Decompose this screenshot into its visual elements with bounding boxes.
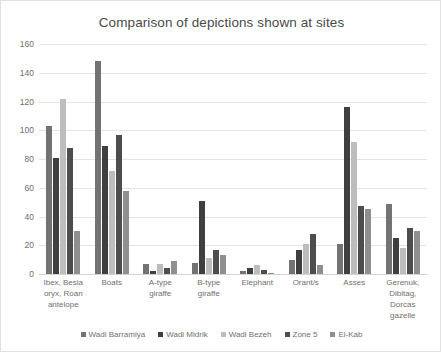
- bar-group: [233, 44, 282, 274]
- bar[interactable]: [199, 201, 205, 274]
- plot-area: 020406080100120140160: [39, 44, 427, 274]
- bar[interactable]: [74, 231, 80, 274]
- chart-container: Comparison of depictions shown at sites …: [0, 0, 441, 352]
- bar-group: [379, 44, 428, 274]
- bar-group: [185, 44, 234, 274]
- bar[interactable]: [46, 126, 52, 274]
- y-axis-tick: 120: [20, 97, 34, 107]
- bar[interactable]: [296, 250, 302, 274]
- bar[interactable]: [143, 264, 149, 274]
- legend-item[interactable]: El-Kab: [330, 330, 362, 339]
- legend-swatch-icon: [158, 332, 163, 337]
- bar[interactable]: [407, 228, 413, 274]
- bar[interactable]: [123, 191, 129, 274]
- x-axis-label: Elephant: [233, 277, 282, 321]
- legend-label: El-Kab: [338, 330, 362, 339]
- legend-item[interactable]: Wadi Midrik: [158, 330, 207, 339]
- bar[interactable]: [171, 261, 177, 274]
- bar[interactable]: [95, 61, 101, 274]
- bar[interactable]: [60, 99, 66, 274]
- bar[interactable]: [365, 209, 371, 274]
- bar[interactable]: [53, 158, 59, 274]
- y-axis-tick: 100: [20, 125, 34, 135]
- bar[interactable]: [116, 135, 122, 274]
- legend-label: Zone 5: [293, 330, 318, 339]
- bar[interactable]: [351, 142, 357, 274]
- x-axis-label: Boats: [88, 277, 137, 321]
- bar[interactable]: [358, 206, 364, 274]
- legend-item[interactable]: Wadi Barramiya: [81, 330, 146, 339]
- bar[interactable]: [220, 255, 226, 274]
- bar[interactable]: [317, 265, 323, 274]
- legend-label: Wadi Midrik: [166, 330, 207, 339]
- y-axis-tick: 40: [25, 212, 34, 222]
- legend-label: Wadi Bezeh: [229, 330, 272, 339]
- bar-group: [39, 44, 88, 274]
- y-axis-tick: 80: [25, 154, 34, 164]
- x-axis-label: B-type giraffe: [185, 277, 234, 321]
- bar[interactable]: [247, 268, 253, 274]
- legend-swatch-icon: [221, 332, 226, 337]
- bar-group: [136, 44, 185, 274]
- x-axis-label: Ibex, Besia oryx, Roan antelope: [39, 277, 88, 321]
- chart-legend: Wadi BarramiyaWadi MidrikWadi BezehZone …: [1, 330, 441, 339]
- y-axis-tick: 20: [25, 240, 34, 250]
- bar[interactable]: [102, 146, 108, 274]
- x-axis-labels: Ibex, Besia oryx, Roan antelopeBoatsA-ty…: [39, 277, 427, 321]
- gridline: 0: [39, 274, 427, 275]
- y-axis-tick: 160: [20, 39, 34, 49]
- x-axis-label: Orant/s: [282, 277, 331, 321]
- legend-item[interactable]: Zone 5: [285, 330, 318, 339]
- bar[interactable]: [414, 231, 420, 274]
- y-axis-tick: 140: [20, 68, 34, 78]
- legend-swatch-icon: [285, 332, 290, 337]
- bar[interactable]: [206, 258, 212, 274]
- bar[interactable]: [289, 260, 295, 274]
- bar[interactable]: [67, 148, 73, 275]
- bar[interactable]: [386, 204, 392, 274]
- bar[interactable]: [254, 265, 260, 274]
- chart-title: Comparison of depictions shown at sites: [1, 15, 441, 30]
- legend-swatch-icon: [81, 332, 86, 337]
- x-axis-label: A-type giraffe: [136, 277, 185, 321]
- bar[interactable]: [303, 244, 309, 274]
- legend-swatch-icon: [330, 332, 335, 337]
- legend-item[interactable]: Wadi Bezeh: [221, 330, 272, 339]
- bar-group: [330, 44, 379, 274]
- bar[interactable]: [164, 268, 170, 274]
- bar[interactable]: [109, 171, 115, 275]
- bar[interactable]: [400, 248, 406, 274]
- bar[interactable]: [261, 270, 267, 274]
- legend-label: Wadi Barramiya: [89, 330, 146, 339]
- bars-layer: [39, 44, 427, 274]
- bar[interactable]: [344, 107, 350, 274]
- bar-group: [282, 44, 331, 274]
- x-axis-label: Asses: [330, 277, 379, 321]
- y-axis-tick: 60: [25, 183, 34, 193]
- bar[interactable]: [192, 263, 198, 275]
- bar[interactable]: [240, 271, 246, 274]
- y-axis-tick: 0: [29, 269, 34, 279]
- bar[interactable]: [393, 238, 399, 274]
- bar[interactable]: [337, 244, 343, 274]
- x-axis-label: Gerenuk, Dibitag, Dorcas gazelle: [379, 277, 428, 321]
- bar[interactable]: [310, 234, 316, 274]
- bar[interactable]: [157, 264, 163, 274]
- bar[interactable]: [268, 273, 274, 274]
- bar-group: [88, 44, 137, 274]
- bar[interactable]: [150, 271, 156, 274]
- bar[interactable]: [213, 250, 219, 274]
